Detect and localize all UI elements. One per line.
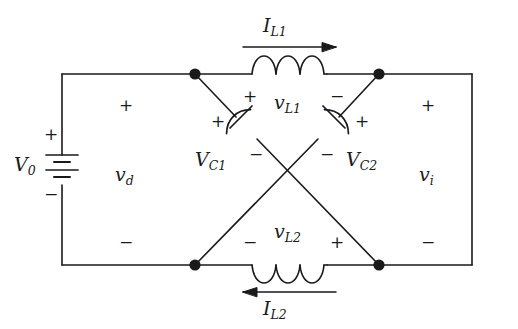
inductor-bottom-voltage-label: vL2 [274, 222, 301, 241]
inductor-top-voltage-sub: L1 [285, 101, 301, 116]
inductor-bottom-current-main: I [263, 297, 271, 319]
capacitor1-plate-curved [221, 104, 250, 133]
capacitor2-plate-curved [324, 104, 353, 133]
inductor-bottom-plus-sign: + [330, 234, 344, 251]
capacitor-left-label-main: V [195, 148, 209, 170]
inductor1-coil-3 [300, 56, 324, 74]
left-port-label-main: v [115, 163, 126, 185]
circuit-diagram: V0 + − + vd − + vi − IL1 + vL1 − − vL2 +… [0, 0, 518, 329]
left-port-minus-sign: − [119, 234, 133, 251]
node-dot-bottom-left [189, 259, 200, 270]
capacitor-right-label-sub: C2 [360, 158, 378, 173]
capacitor-right-label-main: V [346, 148, 360, 170]
left-port-label: vd [115, 165, 134, 184]
inductor1-coil-1 [252, 56, 276, 74]
capacitor-left-label-sub: C1 [209, 158, 227, 173]
inductor-bottom-current-sub: L2 [271, 307, 287, 322]
inductor-top-current-label: IL1 [263, 16, 287, 35]
inductor-top-voltage-label: vL1 [274, 93, 301, 112]
left-port-plus-sign: + [119, 97, 133, 114]
inductor-bottom-voltage-sub: L2 [285, 230, 301, 245]
current-arrow2-head [243, 288, 257, 297]
inductor-top-voltage-main: v [274, 91, 285, 113]
inductor-bottom-minus-sign: − [243, 234, 257, 251]
capacitor-right-minus-sign: − [320, 146, 334, 163]
current-arrow1-head [322, 43, 336, 52]
source-minus-sign: − [44, 186, 58, 203]
capacitor-left-label: VC1 [195, 150, 226, 169]
inductor-top-minus-sign: − [330, 88, 344, 105]
inductor-bottom-current-label: IL2 [263, 299, 287, 318]
capacitor-left-plus-sign: + [211, 113, 225, 130]
capacitor-left-minus-sign: − [249, 146, 263, 163]
capacitor-right-plus-sign: + [355, 113, 369, 130]
right-port-label-main: v [419, 163, 430, 185]
right-port-label: vi [419, 165, 434, 184]
left-port-label-sub: d [126, 173, 134, 188]
inductor2-coil-3 [300, 265, 324, 283]
circuit-schematic-canvas [0, 0, 518, 329]
right-port-minus-sign: − [421, 234, 435, 251]
capacitor-right-label: VC2 [346, 150, 377, 169]
inductor1-coil-2 [276, 56, 300, 74]
inductor2-coil-2 [276, 265, 300, 283]
source-label-sub: 0 [28, 163, 36, 178]
node-dot-top-left [189, 68, 200, 79]
inductor2-coil-1 [252, 265, 276, 283]
inductor-top-current-main: I [263, 14, 271, 36]
source-plus-sign: + [44, 126, 58, 143]
inductor-bottom-voltage-main: v [274, 220, 285, 242]
node-dot-top-right [373, 68, 384, 79]
node-dot-bottom-right [373, 259, 384, 270]
source-label: V0 [14, 155, 36, 174]
inductor-top-plus-sign: + [243, 88, 257, 105]
source-label-main: V [14, 153, 28, 175]
inductor-top-current-sub: L1 [271, 24, 287, 39]
right-port-label-sub: i [430, 173, 434, 188]
right-port-plus-sign: + [421, 97, 435, 114]
